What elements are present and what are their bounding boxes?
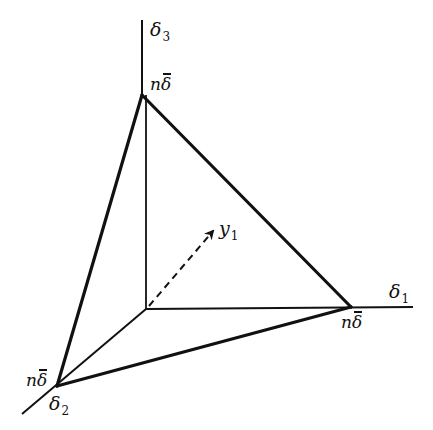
vertex-label-n: n bbox=[26, 370, 37, 390]
vertex-label-delta3: nδ bbox=[150, 76, 171, 93]
axis-delta2 bbox=[22, 309, 146, 414]
axis-label-delta1-symbol: δ bbox=[389, 280, 400, 302]
vector-label-y-subscript: 1 bbox=[231, 229, 239, 243]
axis-label-delta3-symbol: δ bbox=[150, 18, 161, 40]
vertex-label-delta-bar: δ bbox=[352, 314, 362, 331]
axis-label-delta2: δ2 bbox=[49, 394, 69, 417]
vertex-label-delta2: nδ bbox=[26, 372, 47, 389]
vertex-label-delta1: nδ bbox=[341, 314, 362, 331]
vector-label-y-symbol: y bbox=[219, 217, 230, 239]
edge-apex-to-left bbox=[57, 95, 142, 386]
axis-label-delta1: δ1 bbox=[389, 282, 409, 305]
axis-label-delta3-subscript: 3 bbox=[162, 30, 170, 44]
vertex-label-delta-bar: δ bbox=[161, 76, 171, 93]
simplex-diagram bbox=[0, 0, 433, 430]
vector-y1-arrow bbox=[149, 231, 213, 306]
axis-label-delta2-subscript: 2 bbox=[61, 404, 69, 418]
vertex-label-n: n bbox=[341, 312, 352, 332]
vector-label-y1: y1 bbox=[219, 219, 238, 242]
vertex-label-delta-bar: δ bbox=[37, 372, 47, 389]
vertex-label-n: n bbox=[150, 74, 161, 94]
axis-label-delta2-symbol: δ bbox=[49, 392, 60, 414]
axis-delta1 bbox=[146, 307, 413, 309]
axis-label-delta3: δ3 bbox=[150, 20, 170, 43]
axis-label-delta1-subscript: 1 bbox=[401, 292, 409, 306]
edge-apex-to-right bbox=[142, 95, 351, 307]
